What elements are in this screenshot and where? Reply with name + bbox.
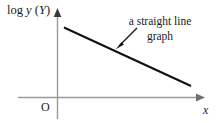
y-axis-arrowhead [54,8,62,17]
origin-label: O [41,101,50,113]
y-axis-label: log y (Y) [7,4,50,17]
y-axis-label-paren-close: ) [46,3,50,17]
y-axis-label-paren-open: ( [32,3,39,17]
x-axis-label: x [203,104,208,116]
annotation-label-line2: graph [108,29,212,44]
y-axis-label-capital-y: Y [39,3,46,17]
x-axis-arrowhead [196,94,205,102]
annotation-label: a straight line graph [108,14,212,44]
figure-root: log y (Y) a straight line graph O x [0,0,218,123]
annotation-label-line1: a straight line [108,14,212,29]
y-axis-label-log: log [7,3,26,17]
